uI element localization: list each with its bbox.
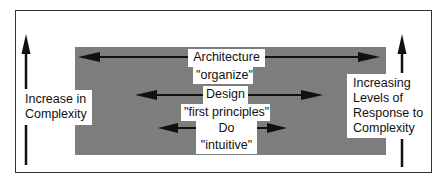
do-descriptor: "intuitive" bbox=[196, 137, 257, 154]
left-axis-label: Increase in Complexity bbox=[22, 90, 92, 125]
architecture-descriptor: "organize" bbox=[193, 67, 253, 84]
left-axis-label-line2: Complexity bbox=[25, 107, 89, 122]
right-axis-label: Increasing Levels of Response to Complex… bbox=[347, 74, 427, 138]
right-axis-label-line1: Increasing bbox=[353, 76, 424, 91]
do-label: Do bbox=[196, 120, 257, 137]
right-axis-label-line4: Complexity bbox=[353, 121, 424, 136]
right-axis-label-line2: Levels of bbox=[353, 91, 424, 106]
architecture-label: Architecture bbox=[188, 49, 265, 67]
design-descriptor: "first principles" bbox=[181, 104, 270, 121]
left-axis-label-line1: Increase in bbox=[25, 92, 89, 107]
design-label: Design bbox=[203, 86, 248, 104]
right-axis-label-line3: Response to bbox=[353, 106, 424, 121]
